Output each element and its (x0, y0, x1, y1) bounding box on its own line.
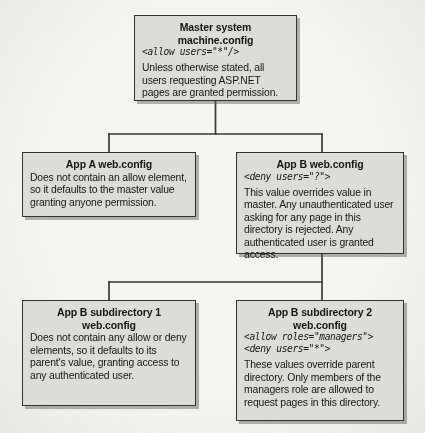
node-title-line2: web.config (244, 319, 396, 332)
node-code: <deny users="?"> (244, 171, 396, 183)
node-body: Unless otherwise stated, all users reque… (142, 62, 289, 100)
diagram-canvas: Master system machine.config <allow user… (0, 0, 425, 433)
node-code: <allow users="*"/> (142, 46, 289, 58)
node-body: Does not contain any allow or deny eleme… (30, 332, 188, 382)
node-master-machine-config: Master system machine.config <allow user… (134, 15, 297, 101)
node-title: App B subdirectory 2 (244, 306, 396, 319)
node-title: App B subdirectory 1 (30, 306, 188, 319)
node-app-b-subdirectory-2-web-config: App B subdirectory 2 web.config <allow r… (236, 300, 404, 421)
node-body: These values override parent directory. … (244, 359, 396, 409)
node-app-b-web-config: App B web.config <deny users="?"> This v… (236, 152, 404, 254)
node-title: App A web.config (30, 158, 188, 171)
node-code: <allow roles="managers"> <deny users="*"… (244, 331, 396, 355)
node-title-line2: web.config (30, 319, 188, 332)
node-app-a-web-config: App A web.config Does not contain an all… (22, 152, 196, 217)
node-body: Does not contain an allow element, so it… (30, 172, 188, 210)
node-title: Master system machine.config (142, 21, 289, 46)
node-app-b-subdirectory-1-web-config: App B subdirectory 1 web.config Does not… (22, 300, 196, 406)
node-title: App B web.config (244, 158, 396, 171)
node-body: This value overrides value in master. An… (244, 187, 396, 263)
